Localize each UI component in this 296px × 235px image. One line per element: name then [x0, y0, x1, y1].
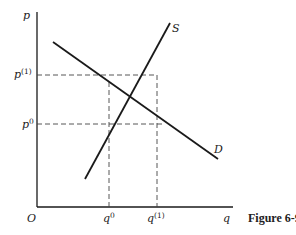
p0-label: p0 [22, 117, 34, 131]
supply-demand-diagram: p S D p(1) p0 O q0 q(1) q Figure 6-9 [0, 0, 296, 235]
q1-label: q(1) [147, 211, 165, 225]
origin-label: O [27, 212, 36, 225]
demand-curve [53, 42, 218, 159]
supply-label: S [172, 22, 180, 35]
y-axis-label: p [23, 9, 30, 22]
p1-label: p(1) [14, 67, 32, 81]
demand-label: D [213, 143, 223, 156]
q0-label: q0 [103, 211, 115, 225]
figure-caption: Figure 6-9 [248, 211, 296, 225]
x-axis-label: q [223, 212, 230, 225]
